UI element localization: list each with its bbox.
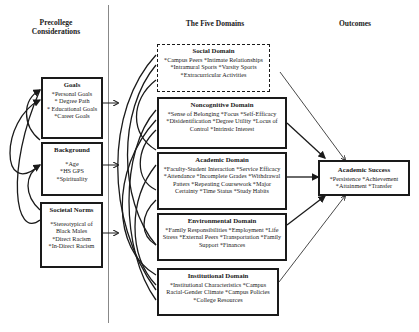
precollege-column-title: Precollege Considerations [18,18,94,36]
academic-success-box: Academic Success *Persistence *Achieveme… [318,160,410,196]
academic-domain-factors: *Faculty-Student Interaction *Service Ef… [162,165,282,195]
environmental-domain-factors: *Family Responsibilities *Employment *Li… [162,226,282,249]
column-divider [108,5,109,323]
societal-norms-item: *Stereotypical of Black Males [45,220,98,235]
academic-domain-title: Academic Domain [162,156,282,164]
outcomes-column-title: Outcomes [325,19,385,28]
academic-success-title: Academic Success [323,166,405,174]
noncognitive-domain-title: Noncognitive Domain [162,101,282,109]
noncognitive-domain-box: Noncognitive Domain *Sense of Belonging … [157,97,287,149]
environmental-domain-title: Environmental Domain [162,217,282,225]
academic-success-outcomes: *Persistence *Achievement *Attainment *T… [323,175,405,190]
goals-item: *Career Goals [46,112,98,120]
background-item: *HS GPS [46,167,98,175]
societal-norms-item: *In-Direct Racism [45,242,98,250]
academic-domain-box: Academic Domain *Faculty-Student Interac… [157,152,287,210]
social-domain-factors: *Campus Peers *Intimate Relationships *I… [161,56,266,79]
background-item: *Age [46,160,98,168]
societal-norms-box: Societal Norms *Stereotypical of Black M… [40,202,103,268]
goals-box: Goals *Personal Goals * Degree Path * Ed… [41,77,103,139]
goals-item: * Degree Path [46,97,98,105]
social-domain-title: Social Domain [161,47,266,55]
environmental-domain-box: Environmental Domain *Family Responsibil… [157,213,287,261]
background-box: Background *Age *HS GPS *Spirituality [41,142,103,196]
societal-norms-item: *Direct Racism [45,235,98,243]
goals-item: *Personal Goals [46,90,98,98]
social-domain-box: Social Domain *Campus Peers *Intimate Re… [157,44,270,92]
institutional-domain-title: Institutional Domain [162,272,274,280]
noncognitive-domain-factors: *Sense of Belonging *Focus *Self-Efficac… [162,110,282,133]
background-item: *Spirituality [46,175,98,183]
institutional-domain-factors: *Institutional Characteristics *Campus R… [162,281,274,304]
institutional-domain-box: Institutional Domain *Institutional Char… [157,268,279,316]
societal-norms-title: Societal Norms [45,206,98,214]
goals-item: * Educational Goals [46,105,98,113]
five-domains-column-title: The Five Domains [170,19,260,28]
background-title: Background [46,146,98,154]
goals-title: Goals [46,81,98,89]
